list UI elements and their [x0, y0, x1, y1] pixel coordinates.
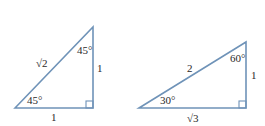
bottom-angle-label: 45° — [27, 94, 42, 106]
horizontal-leg-label: √3 — [187, 112, 199, 124]
vertical-leg-label: 1 — [97, 62, 103, 74]
triangle-45-45-90: √2 1 1 45° 45° — [15, 27, 103, 123]
top-angle-label: 45° — [77, 44, 92, 56]
hypotenuse-label: √2 — [36, 57, 48, 69]
special-triangles-diagram: √2 1 1 45° 45° 2 1 √3 60° 30° — [0, 0, 265, 126]
top-angle-label: 60° — [230, 52, 245, 64]
vertical-leg-label: 1 — [251, 69, 257, 81]
right-angle-marker — [86, 101, 93, 108]
right-angle-marker — [239, 101, 246, 108]
horizontal-leg-label: 1 — [51, 111, 57, 123]
triangle-30-60-90: 2 1 √3 60° 30° — [139, 42, 257, 124]
hypotenuse-label: 2 — [187, 62, 193, 74]
bottom-angle-label: 30° — [160, 94, 175, 106]
